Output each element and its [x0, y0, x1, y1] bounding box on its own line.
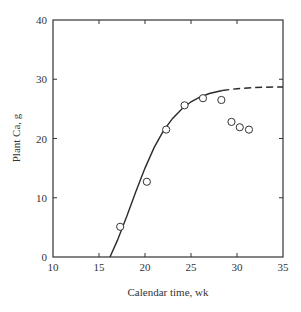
data-point — [117, 223, 124, 230]
observed-points — [117, 95, 253, 231]
fit-curve — [110, 91, 222, 258]
data-point — [143, 178, 150, 185]
y-tick-label: 40 — [36, 14, 48, 26]
model-curves — [110, 87, 283, 257]
data-point — [228, 118, 235, 125]
plot-border — [53, 20, 283, 257]
x-axis-ticks: 101520253035 — [48, 20, 290, 273]
chart-canvas: 101520253035 010203040 Calendar time, wk… — [0, 0, 301, 312]
x-tick-label: 10 — [48, 261, 60, 273]
data-point — [218, 96, 225, 103]
x-tick-label: 30 — [232, 261, 244, 273]
y-tick-label: 30 — [36, 73, 48, 85]
x-tick-label: 20 — [140, 261, 152, 273]
x-tick-label: 35 — [278, 261, 290, 273]
data-point — [199, 95, 206, 102]
x-tick-label: 15 — [94, 261, 106, 273]
x-tick-label: 25 — [186, 261, 198, 273]
data-point — [163, 126, 170, 133]
data-point — [245, 126, 252, 133]
y-tick-label: 0 — [42, 251, 48, 263]
y-axis-label: Plant Ca, g — [10, 113, 22, 162]
y-tick-label: 20 — [36, 133, 48, 145]
plot-frame — [53, 20, 283, 257]
data-point — [181, 102, 188, 109]
data-point — [236, 124, 243, 131]
x-axis-label: Calendar time, wk — [128, 286, 209, 298]
extrapolation-curve — [222, 87, 283, 91]
y-tick-label: 10 — [36, 192, 48, 204]
